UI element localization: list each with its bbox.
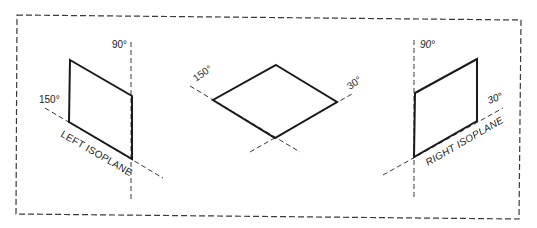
top-isoplane: 150° 30° xyxy=(190,63,364,152)
left-150-label: 150° xyxy=(39,94,60,105)
right-isoplane: 90° 30° RIGHT ISOPLANE xyxy=(383,39,505,200)
dashed-border xyxy=(16,15,521,219)
right-isoplane-label: RIGHT ISOPLANE xyxy=(424,114,506,168)
left-90-label: 90° xyxy=(112,39,127,50)
top-isoplane-shape xyxy=(213,65,337,138)
isoplane-diagram: 90° 150° LEFT ISOPLANE 150° 30° 90° 30° … xyxy=(0,0,537,228)
right-30-label: 30° xyxy=(486,90,504,106)
top-30-label: 30° xyxy=(345,74,364,92)
right-90-label: 90° xyxy=(420,39,435,50)
top-150-label: 150° xyxy=(191,63,214,84)
left-isoplane: 90° 150° LEFT ISOPLANE xyxy=(39,39,163,202)
